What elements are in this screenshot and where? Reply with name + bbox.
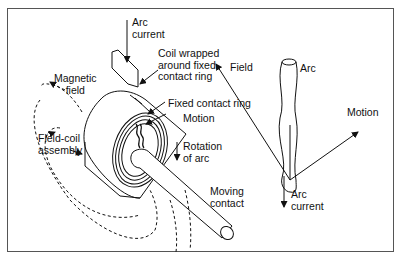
diagram-drawing — [0, 0, 404, 261]
arc-column — [279, 59, 297, 192]
coil-tab — [112, 50, 138, 87]
label-arc: Arc — [300, 63, 316, 75]
label-moving-contact: Moving contact — [210, 186, 244, 209]
label-magnetic-field: Magnetic field — [54, 73, 97, 96]
field-arrow-icon — [216, 64, 290, 180]
label-field-coil-assembly: Field-coil assembly — [38, 133, 82, 156]
label-arc-current-bottom: Arc current — [291, 189, 324, 212]
motion-arrow-icon — [290, 132, 358, 180]
label-rotation-of-arc: Rotation of arc — [183, 141, 222, 164]
label-fixed-contact-ring: Fixed contact ring — [168, 98, 251, 110]
label-field: Field — [230, 62, 253, 74]
label-arc-current-top: Arc current — [132, 17, 165, 40]
label-motion-right: Motion — [347, 107, 379, 119]
label-motion-left: Motion — [183, 113, 215, 125]
label-coil-wrapped: Coil wrapped around fixed contact ring — [158, 48, 219, 83]
